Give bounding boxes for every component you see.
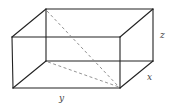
bottom-left-depth-edge (13, 61, 46, 88)
base-diagonal (48, 62, 119, 87)
x-label: x (147, 72, 152, 82)
front-face (12, 37, 120, 88)
space-diagonal (47, 11, 119, 87)
top-right-depth-edge (120, 9, 153, 37)
z-label: z (159, 30, 165, 40)
top-left-depth-edge (12, 9, 46, 37)
front-left-edge (12, 37, 13, 88)
back-face (46, 9, 153, 61)
y-label: y (58, 93, 65, 103)
cuboid-diagram: z x y (0, 0, 172, 108)
